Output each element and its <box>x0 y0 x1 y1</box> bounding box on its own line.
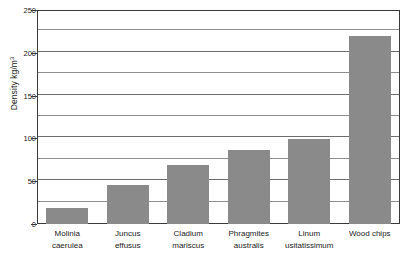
x-axis-label-line1: Wood chips <box>349 229 391 238</box>
x-axis-label-line1: Molinia <box>55 229 80 238</box>
x-axis-label-line2: caerulea <box>37 240 98 252</box>
x-axis-label-line2: australis <box>219 240 280 252</box>
x-axis-label: Juncuseffusus <box>98 228 159 251</box>
bar <box>46 208 88 224</box>
x-axis-label-line2: usitatissimum <box>279 240 340 252</box>
x-axis-labels: MoliniacaeruleaJuncuseffususCladiummaris… <box>37 228 400 262</box>
bar <box>228 150 270 224</box>
bar-slot <box>158 10 219 224</box>
bar-slot <box>219 10 280 224</box>
x-axis-label-line2: mariscus <box>158 240 219 252</box>
bar-slot <box>279 10 340 224</box>
bar <box>288 139 330 224</box>
x-axis-label: Cladiummariscus <box>158 228 219 251</box>
x-axis-label: Moliniacaerulea <box>37 228 98 251</box>
bar <box>107 185 149 224</box>
x-axis-label: Wood chips <box>340 228 401 240</box>
bars-layer <box>37 10 400 224</box>
x-axis-label: Linumusitatissimum <box>279 228 340 251</box>
x-axis-label-line2: effusus <box>98 240 159 252</box>
bar <box>349 36 391 224</box>
bar-chart: Density kg/m3 050100150200250 Moliniacae… <box>0 0 410 262</box>
x-axis-label-line1: Cladium <box>174 229 203 238</box>
x-axis-label-line1: Phragmites <box>229 229 269 238</box>
bar-slot <box>340 10 401 224</box>
x-axis-label-line1: Linum <box>298 229 320 238</box>
y-tick-mark-0 <box>31 224 37 225</box>
y-axis-title-text: Density kg/m <box>9 60 19 110</box>
bar <box>167 165 209 224</box>
bar-slot <box>98 10 159 224</box>
x-axis-label: Phragmitesaustralis <box>219 228 280 251</box>
x-axis-label-line1: Juncus <box>115 229 140 238</box>
bar-slot <box>37 10 98 224</box>
